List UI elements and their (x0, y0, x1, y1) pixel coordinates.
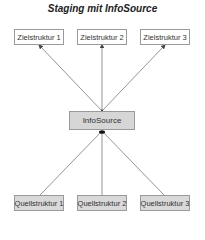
source-box-1[interactable]: Quellstruktur 1 (14, 195, 64, 211)
infosource-box[interactable]: InfoSource (69, 111, 135, 130)
hub-input-dot (99, 130, 105, 134)
target-box-2[interactable]: Zielstruktur 2 (77, 29, 127, 45)
arrow-hub-to-target-1 (40, 46, 102, 111)
source-label: Quellstruktur 3 (141, 199, 190, 208)
target-label: Zielstruktur 2 (80, 33, 123, 42)
target-box-1[interactable]: Zielstruktur 1 (14, 29, 64, 45)
line-source-3-to-hub (102, 131, 164, 195)
source-box-2[interactable]: Quellstruktur 2 (77, 195, 127, 211)
target-label: Zielstruktur 1 (17, 33, 60, 42)
target-box-3[interactable]: Zielstruktur 3 (140, 29, 190, 45)
source-label: Quellstruktur 2 (78, 199, 127, 208)
target-label: Zielstruktur 3 (143, 33, 186, 42)
source-label: Quellstruktur 1 (15, 199, 64, 208)
arrow-hub-to-target-3 (102, 46, 164, 111)
line-source-1-to-hub (40, 131, 102, 195)
hub-label: InfoSource (83, 116, 122, 125)
source-box-3[interactable]: Quellstruktur 3 (140, 195, 190, 211)
